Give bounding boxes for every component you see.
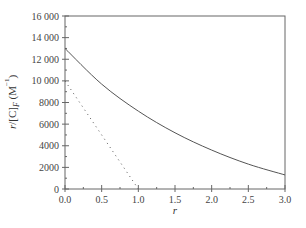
x-tick-label: 0.5 [95,194,108,205]
x-tick-label: 1.0 [132,194,145,205]
x-axis: 0.00.51.01.52.02.53.0 [59,185,292,205]
y-tick-label: 6000 [39,119,59,130]
x-tick-label: 2.5 [242,194,255,205]
y-axis: 0200040006000800010 00012 00014 00016 00… [32,11,70,195]
solid-curve [65,48,285,175]
dotted-line [65,81,138,189]
y-tick-label: 8000 [39,97,59,108]
chart: 0200040006000800010 00012 00014 00016 00… [0,0,306,228]
y-axis-title: r/[C]F (M−1) [3,75,21,130]
x-tick-label: 2.0 [205,194,218,205]
x-tick-label: 3.0 [279,194,292,205]
y-tick-label: 14 000 [32,32,60,43]
y-tick-label: 4000 [39,140,59,151]
y-tick-label: 10 000 [32,75,60,86]
y-tick-label: 12 000 [32,54,60,65]
y-tick-label: 2000 [39,162,59,173]
x-axis-title: r [173,204,178,216]
y-tick-label: 0 [54,184,59,195]
plot-border [65,16,285,189]
x-tick-label: 0.0 [59,194,72,205]
series-group [65,48,285,189]
y-tick-label: 16 000 [32,11,60,22]
plot-frame [65,16,285,189]
